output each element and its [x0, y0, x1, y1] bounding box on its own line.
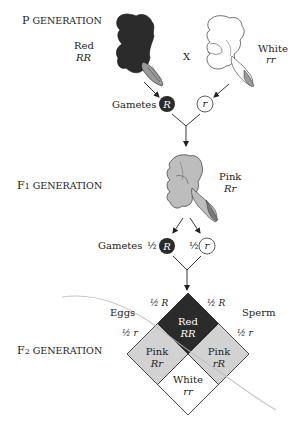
cell-right-genotype: rR [213, 358, 226, 369]
f1-gametes-label: Gametes [98, 240, 142, 251]
cell-right-phenotype: Pink [208, 346, 231, 357]
eggs-label: Eggs [110, 307, 135, 318]
gamete-r-circle: r [197, 96, 213, 112]
f1-generation-label: F1 GENERATION [17, 179, 102, 192]
egg-r-label: ½ r [122, 328, 139, 338]
f1-genotype-label: Rr [223, 183, 238, 194]
cell-top-genotype: RR [179, 328, 196, 339]
cell-top-phenotype: Red [178, 316, 198, 327]
f2-generation-label: F2 GENERATION [17, 344, 102, 357]
svg-text:R: R [162, 241, 171, 252]
red-genotype-label: RR [75, 52, 92, 63]
sperm-label: Sperm [242, 307, 276, 318]
sperm-R-label: ½ R [207, 298, 226, 308]
sperm-r-label: ½ r [237, 328, 254, 338]
pink-flower-icon [167, 155, 218, 222]
f1-gamete-R-fraction: ½ [147, 240, 157, 251]
arrow-red-to-gamete [144, 82, 159, 97]
arrow-white-to-gamete [214, 84, 229, 97]
svg-text:R: R [162, 99, 171, 110]
genetics-diagram: P GENERATION Red RR X White rr Gametes R… [0, 0, 294, 426]
gamete-R-circle: R [159, 96, 175, 112]
f1-gamete-r-fraction: ½ [189, 240, 199, 251]
p-gametes-label: Gametes [112, 99, 156, 110]
white-phenotype-label: White [258, 43, 288, 54]
cross-symbol: X [183, 51, 191, 62]
white-flower-icon [207, 16, 254, 87]
arrow-f1-to-R [173, 218, 183, 233]
red-phenotype-label: Red [74, 40, 94, 51]
f1-phenotype-label: Pink [219, 171, 242, 182]
f1-merge-lines [173, 256, 201, 290]
egg-R-label: ½ R [150, 298, 169, 308]
red-flower-icon [116, 14, 162, 86]
f1-gamete-r-circle: r [199, 238, 215, 254]
cell-bottom-phenotype: White [173, 374, 203, 385]
cell-left-phenotype: Pink [146, 346, 169, 357]
f1-gamete-R-circle: R [159, 238, 175, 254]
arrow-f1-to-r [190, 218, 200, 233]
cell-bottom-genotype: rr [183, 386, 194, 397]
p-generation-label: P GENERATION [22, 14, 102, 27]
white-genotype-label: rr [266, 54, 277, 65]
p-merge-lines [172, 114, 200, 146]
cell-left-genotype: Rr [150, 358, 165, 369]
